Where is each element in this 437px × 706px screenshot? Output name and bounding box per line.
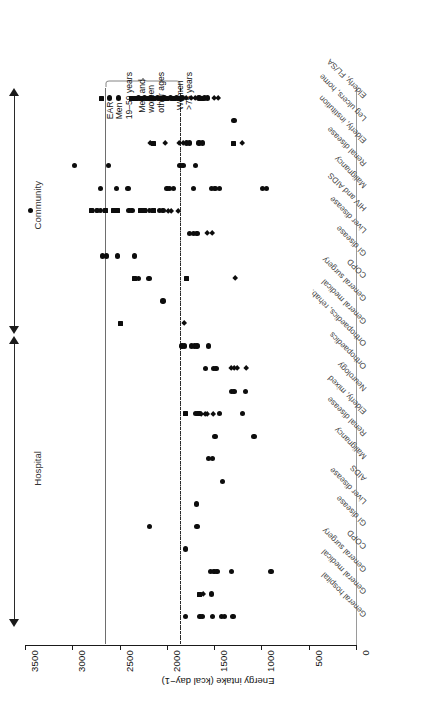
- data-point-square: [118, 321, 123, 326]
- data-point-circle: [243, 389, 248, 394]
- data-point-square: [183, 411, 188, 416]
- data-point-circle: [146, 276, 151, 281]
- data-point-circle: [107, 95, 112, 100]
- data-point-circle: [220, 479, 225, 484]
- data-point-circle: [116, 95, 121, 100]
- x-tick-label: 500: [313, 650, 324, 666]
- data-point-circle: [132, 253, 137, 258]
- data-point-square: [103, 208, 108, 213]
- x-tick-label: 1500: [218, 650, 229, 672]
- x-axis-line: [25, 645, 356, 646]
- data-point-circle: [194, 524, 199, 529]
- arrow-head-down: [9, 619, 19, 627]
- data-point-circle: [182, 343, 187, 348]
- data-point-circle: [194, 501, 199, 506]
- data-point-square: [151, 208, 156, 213]
- data-point-square: [184, 276, 189, 281]
- x-tick-label: 3000: [76, 650, 87, 672]
- data-point-square: [151, 141, 156, 146]
- data-point-circle: [268, 569, 273, 574]
- reference-line-ear-men: [105, 88, 106, 644]
- data-point-circle: [240, 411, 245, 416]
- x-tick-label: 1000: [265, 650, 276, 672]
- data-point-circle: [98, 186, 103, 191]
- data-point-circle: [104, 253, 109, 258]
- data-point-circle: [217, 411, 222, 416]
- arrow-head-up: [9, 336, 19, 344]
- x-tick: [214, 645, 215, 650]
- data-point-circle: [231, 118, 236, 123]
- data-point-circle: [213, 366, 218, 371]
- ann-women75: Women>75 years: [176, 72, 195, 110]
- x-tick-label: 0: [360, 650, 371, 655]
- data-point-circle: [191, 186, 196, 191]
- data-point-circle: [194, 231, 199, 236]
- data-point-diamond: [181, 320, 187, 326]
- data-point-circle: [115, 253, 120, 258]
- arrow-head-up: [9, 88, 19, 96]
- data-point-circle: [114, 186, 119, 191]
- data-point-circle: [147, 524, 152, 529]
- x-tick: [72, 645, 73, 650]
- data-point-circle: [193, 163, 198, 168]
- data-point-diamond: [162, 140, 168, 146]
- data-point-square: [89, 208, 94, 213]
- data-point-circle: [136, 276, 141, 281]
- group-range-line: [14, 96, 15, 326]
- data-point-circle: [212, 434, 217, 439]
- data-point-square: [115, 208, 120, 213]
- data-point-circle: [230, 614, 235, 619]
- data-point-circle: [200, 614, 205, 619]
- data-point-diamond: [243, 365, 249, 371]
- reference-line-women-75: [180, 88, 181, 644]
- chart-figure: 3500300025002000150010005000 EARMen19–59…: [0, 0, 437, 706]
- data-point-circle: [125, 186, 130, 191]
- data-point-diamond: [232, 275, 238, 281]
- data-point-circle: [200, 140, 205, 145]
- data-point-circle: [229, 569, 234, 574]
- data-point-circle: [183, 614, 188, 619]
- category-label: AIDS: [348, 463, 368, 483]
- x-tick: [356, 645, 357, 650]
- data-point-circle: [194, 343, 199, 348]
- data-point-circle: [264, 186, 269, 191]
- data-point-circle: [222, 614, 227, 619]
- arrow-head-down: [9, 326, 19, 334]
- data-point-circle: [209, 591, 214, 596]
- data-point-diamond: [215, 95, 221, 101]
- data-point-circle: [106, 163, 111, 168]
- data-point-square: [142, 208, 147, 213]
- x-tick-label: 2500: [124, 650, 135, 672]
- data-point-circle: [214, 569, 219, 574]
- data-point-circle: [217, 186, 222, 191]
- data-point-circle: [129, 208, 134, 213]
- data-point-square: [231, 141, 236, 146]
- x-tick: [261, 645, 262, 650]
- data-point-diamond: [209, 230, 215, 236]
- x-axis-title: Energy intake (kcal day−1): [118, 676, 318, 687]
- data-point-diamond: [210, 411, 216, 417]
- data-point-square: [99, 96, 104, 101]
- data-point-circle: [183, 546, 188, 551]
- x-tick: [25, 645, 26, 650]
- data-point-circle: [203, 366, 208, 371]
- data-point-circle: [231, 389, 236, 394]
- x-tick: [120, 645, 121, 650]
- data-point-circle: [251, 434, 256, 439]
- x-tick-label: 3500: [29, 650, 40, 672]
- data-point-circle: [72, 163, 77, 168]
- group-label-hospital: Hospital: [32, 451, 43, 486]
- x-tick-label: 2000: [171, 650, 182, 672]
- data-point-diamond: [239, 140, 245, 146]
- data-point-circle: [210, 456, 215, 461]
- x-tick: [167, 645, 168, 650]
- data-point-circle: [206, 343, 211, 348]
- data-point-circle: [205, 95, 210, 100]
- group-label-community: Community: [32, 181, 43, 230]
- ann-men-women: Men andwomenother ages: [138, 72, 166, 113]
- data-point-circle: [210, 614, 215, 619]
- data-point-circle: [180, 163, 185, 168]
- group-range-line: [14, 344, 15, 619]
- data-point-circle: [160, 298, 165, 303]
- plot-area: 3500300025002000150010005000 EARMen19–59…: [0, 0, 437, 706]
